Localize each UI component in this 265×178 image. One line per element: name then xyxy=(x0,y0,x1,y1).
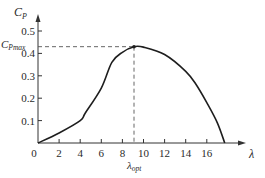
x-tick-label: 6 xyxy=(99,147,105,159)
x-tick-label: 8 xyxy=(120,147,126,159)
optimum-guides xyxy=(38,47,134,143)
y-axis-arrow-icon xyxy=(36,14,41,22)
y-ticks: 0.10.20.30.40.5 xyxy=(21,25,42,127)
x-tick-label: 16 xyxy=(201,147,213,159)
cp-lambda-chart: 0246810121416 0.10.20.30.40.5 CP λ CPmax… xyxy=(0,0,265,178)
y-axis-label: CP xyxy=(14,5,27,21)
cp-curve xyxy=(38,46,225,143)
lambda-opt-label-sub: opt xyxy=(132,164,143,173)
cpmax-label: CPmax xyxy=(1,38,26,52)
x-tick-label: 10 xyxy=(138,147,150,159)
x-tick-label: 2 xyxy=(56,147,62,159)
y-tick-label: 0.3 xyxy=(21,70,35,82)
x-tick-label: 0 xyxy=(31,147,37,159)
x-tick-label: 4 xyxy=(77,147,83,159)
lambda-opt-label: λopt xyxy=(126,159,142,173)
x-tick-label: 12 xyxy=(159,147,170,159)
x-axis-arrow-icon xyxy=(238,141,246,146)
axes xyxy=(36,14,247,146)
x-axis-label: λ xyxy=(248,147,254,161)
y-tick-label: 0.1 xyxy=(21,115,35,127)
optimum-point xyxy=(132,45,136,49)
y-tick-label: 0.5 xyxy=(21,25,35,37)
x-tick-label: 14 xyxy=(180,147,192,159)
x-ticks: 0246810121416 xyxy=(31,139,213,159)
cpmax-label-sub: Pmax xyxy=(7,43,26,52)
y-tick-label: 0.2 xyxy=(21,92,35,104)
y-axis-label-sub: P xyxy=(21,12,27,21)
